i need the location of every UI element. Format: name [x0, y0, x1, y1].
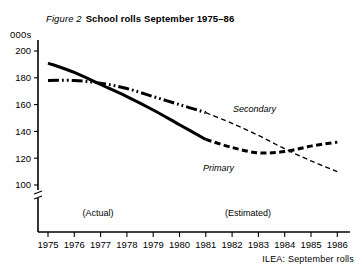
x-axis-tick-label: 1983 — [248, 239, 269, 250]
x-axis-tick-label: 1981 — [195, 239, 216, 250]
series-label-primary: Primary — [203, 163, 234, 173]
y-axis-tick-label: 200 — [15, 45, 31, 56]
x-axis-tick-label: 1976 — [64, 239, 85, 250]
figure-container: Figure 2School rolls September 1975–86 0… — [0, 0, 362, 274]
x-axis-tick-label: 1986 — [327, 239, 348, 250]
axes — [34, 40, 350, 237]
x-axis-tick-label: 1982 — [222, 239, 243, 250]
source-note: ILEA: September rolls — [262, 254, 354, 264]
series-labels: SecondaryPrimary — [203, 104, 277, 173]
phase-annotations: (Actual)(Estimated) — [82, 208, 271, 218]
y-axis-tick-label: 140 — [15, 126, 31, 137]
y-axis-tick-label: 180 — [15, 72, 31, 83]
series-line-primary — [48, 63, 206, 139]
series-lines — [48, 63, 337, 172]
y-axis-break — [34, 191, 42, 199]
x-axis-tick-label: 1985 — [300, 239, 321, 250]
x-axis-tick-label: 1980 — [169, 239, 190, 250]
x-axis-tick-label: 1975 — [37, 239, 58, 250]
series-label-secondary: Secondary — [233, 104, 277, 114]
series-line-primary — [206, 139, 337, 153]
x-axis-tick-label: 1977 — [90, 239, 111, 250]
y-axis-tick-label: 120 — [15, 153, 31, 164]
x-axis-tick-label: 1979 — [143, 239, 164, 250]
y-axis-labels: 100120140160180200 — [15, 45, 31, 190]
chart-plot: 100120140160180200 197519761977197819791… — [0, 0, 362, 274]
x-axis-labels: 1975197619771978197919801981198219831984… — [37, 239, 347, 250]
annotation-estimated: (Estimated) — [225, 208, 271, 218]
y-axis-tick-label: 160 — [15, 99, 31, 110]
x-axis-tick-label: 1984 — [274, 239, 295, 250]
annotation-actual: (Actual) — [82, 208, 113, 218]
y-axis-tick-label: 100 — [15, 179, 31, 190]
x-axis-tick-label: 1978 — [116, 239, 137, 250]
